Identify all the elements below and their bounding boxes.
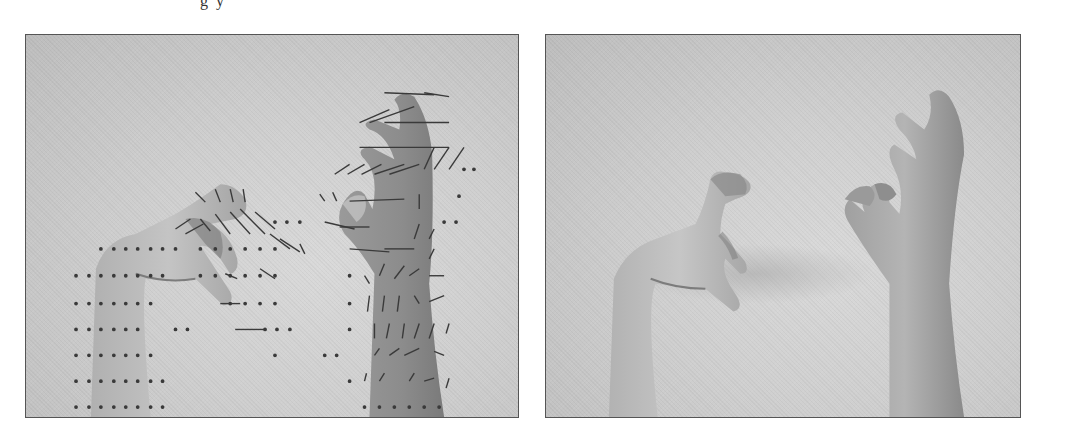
hands-with-flow-image (26, 35, 518, 417)
hands-original-image (546, 35, 1020, 417)
figure-panel-right-original (545, 34, 1021, 418)
right-hand-shape (339, 94, 444, 417)
cropped-caption-fragment: g y (200, 0, 226, 10)
right-hand-shape (845, 90, 964, 417)
figure-panel-left-flow (25, 34, 519, 418)
